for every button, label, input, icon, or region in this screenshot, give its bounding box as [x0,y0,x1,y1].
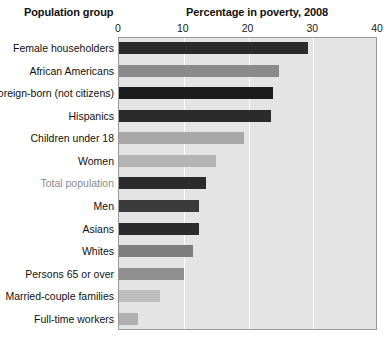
chart-title: Percentage in poverty, 2008 [186,6,328,18]
category-label: Foreign-born (not citizens) [0,87,114,99]
category-label: Persons 65 or over [25,268,114,280]
bar [119,290,160,302]
bar [119,42,308,54]
category-label: Children under 18 [31,132,114,144]
category-label: Married-couple families [5,290,114,302]
bar [119,177,206,189]
category-label: Total population [40,177,114,189]
bar-row: Children under 18 [0,127,384,150]
category-label: Women [78,155,114,167]
x-axis-tick-20: 20 [242,22,254,34]
population-group-header: Population group [24,6,113,18]
bar-row: Foreign-born (not citizens) [0,82,384,105]
bar [119,313,138,325]
bar [119,245,193,257]
category-label: Full-time workers [34,313,114,325]
bar-row: Women [0,150,384,173]
bar [119,87,273,99]
category-label: Asians [82,223,114,235]
bar-row: Full-time workers [0,307,384,330]
category-label: Men [94,200,114,212]
x-axis-tick-labels: 010203040 [0,22,384,36]
bar-row: Asians [0,217,384,240]
x-axis-tick-40: 40 [371,22,383,34]
bar [119,268,184,280]
category-label: Whites [82,245,114,257]
bar-row: Total population [0,172,384,195]
bar-row: Persons 65 or over [0,262,384,285]
bar [119,110,271,122]
bar-row: African Americans [0,60,384,83]
bar [119,65,279,77]
bar [119,200,199,212]
category-label: Hispanics [68,110,114,122]
bar-row: Female householders [0,37,384,60]
category-label: Female householders [13,42,114,54]
x-axis-tick-30: 30 [306,22,318,34]
bar-row: Men [0,195,384,218]
category-label: African Americans [29,65,114,77]
bar-row: Whites [0,240,384,263]
bar-row: Married-couple families [0,285,384,308]
bar [119,132,244,144]
poverty-bar-chart: Population group Percentage in poverty, … [0,0,384,342]
bar [119,155,216,167]
bar [119,223,199,235]
bar-row: Hispanics [0,105,384,128]
x-axis-tick-10: 10 [177,22,189,34]
bar-rows: Female householdersAfrican AmericansFore… [0,37,384,330]
x-axis-tick-0: 0 [115,22,121,34]
